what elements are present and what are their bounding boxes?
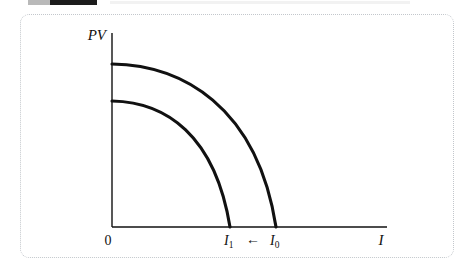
tick-label-i-zero: I0: [269, 233, 280, 250]
tick-label-i-one: I1: [223, 233, 234, 250]
origin-label: 0: [105, 233, 112, 248]
y-axis-label: PV: [87, 27, 108, 43]
header-strip-faint-block: [110, 1, 410, 4]
economics-figure-svg: PV I 0 I1 ← I0: [21, 15, 455, 259]
header-strip-dark-block: [50, 0, 97, 5]
x-axis-label: I: [378, 232, 385, 248]
tick-label-i-zero-sub: 0: [275, 240, 280, 250]
inner-arc-curve: [112, 101, 230, 227]
tick-label-i-one-sub: 1: [229, 240, 234, 250]
cropped-header-strip: [0, 0, 473, 6]
shift-arrow-icon: ←: [246, 232, 260, 247]
figure-panel: PV I 0 I1 ← I0: [20, 14, 454, 258]
header-strip-gray-block: [28, 0, 50, 5]
outer-arc-curve: [112, 64, 276, 227]
